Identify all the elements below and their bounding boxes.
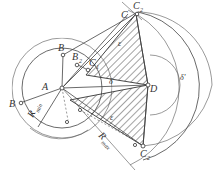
label-A: A	[41, 81, 49, 92]
label-B: B	[58, 42, 64, 53]
point-lower-c	[133, 143, 136, 146]
outer-arc	[138, 12, 212, 146]
label-C: C	[121, 9, 128, 20]
label-C2-bottom-sub: 2	[147, 155, 150, 161]
point-lower-b	[78, 108, 81, 111]
point-C1	[86, 68, 90, 72]
label-C2-top-sub: 2	[140, 7, 143, 13]
label-C2-bottom: C	[140, 148, 147, 159]
label-Rmin-sub: min	[34, 103, 43, 114]
label-D: D	[149, 83, 158, 94]
linkage-diagram: A B B B 2 C 1 C C 2 D C 2 ε ε δ δ' R min…	[0, 0, 216, 187]
rmin-arc	[30, 128, 88, 139]
point-B-left	[19, 101, 23, 105]
point-B	[61, 53, 65, 57]
line-A-Bleft	[20, 88, 62, 103]
hatched-region-upper	[86, 14, 148, 85]
hatched-region-lower	[70, 85, 148, 146]
label-C1: C	[89, 57, 96, 68]
label-B-left: B	[9, 98, 15, 109]
point-A	[60, 86, 64, 90]
label-Rmax-sub: max	[100, 140, 112, 152]
label-delta: δ	[109, 77, 113, 86]
label-B2-sub: 2	[79, 58, 82, 64]
label-Rmax: R	[96, 129, 109, 142]
label-C2-top: C	[133, 0, 140, 11]
point-lower-a	[65, 120, 68, 123]
line-A-B	[62, 55, 63, 88]
dash-A-bottom	[62, 88, 68, 120]
label-B2: B	[72, 51, 78, 62]
label-C1-sub: 1	[96, 64, 99, 70]
label-delta-prime: δ'	[180, 73, 186, 82]
point-C2-top	[135, 12, 139, 16]
